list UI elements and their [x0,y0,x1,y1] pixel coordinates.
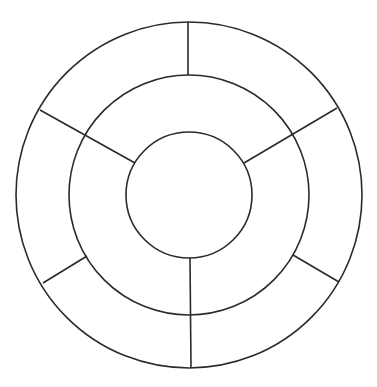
spoke-upper-right [244,108,337,163]
spoke-lower-left-outer [43,256,87,283]
ring-diagram-svg [0,0,377,387]
spoke-lower-right-outer [293,255,339,282]
inner-circle [126,132,252,258]
concentric-circles [16,22,362,368]
spoke-upper-left [40,110,135,163]
segment-dividers [40,22,339,368]
outer-ring [16,22,362,368]
spoke-bottom [190,258,191,368]
middle-ring [69,75,309,315]
ring-diagram [0,0,377,387]
